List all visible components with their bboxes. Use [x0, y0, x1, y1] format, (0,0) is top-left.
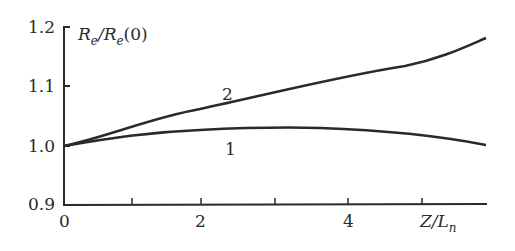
x-axis-title: Z/Ln [419, 211, 457, 235]
y-axis-title: Re/Re(0) [77, 24, 148, 48]
x-tick-label: 0 [59, 211, 70, 231]
y-tick-label: 1.2 [28, 17, 55, 37]
x-tick-label: 4 [343, 211, 354, 231]
curve-1 [64, 128, 486, 146]
curve-2 [64, 38, 486, 146]
curve-2-label: 2 [222, 84, 233, 104]
curve-1-label: 1 [225, 139, 236, 159]
x-tick-label: 2 [195, 211, 206, 231]
y-tick-label: 0.9 [28, 194, 55, 214]
y-tick-label: 1.1 [28, 76, 55, 96]
x-axis [63, 204, 487, 205]
chart: 1.2 1.1 1.0 0.9 0 2 4 Re/Re(0) Z/Ln 2 1 [0, 0, 515, 251]
y-tick-label: 1.0 [28, 136, 55, 156]
